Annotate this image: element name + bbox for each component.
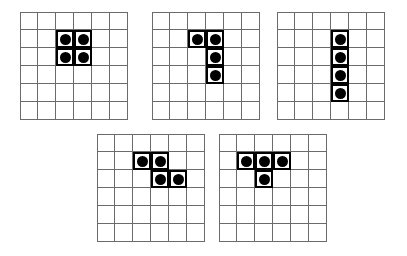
- empty-cell[interactable]: [313, 12, 331, 30]
- filled-cell[interactable]: [331, 84, 349, 102]
- empty-cell[interactable]: [219, 170, 237, 188]
- filled-cell[interactable]: [331, 48, 349, 66]
- empty-cell[interactable]: [349, 66, 367, 84]
- empty-cell[interactable]: [331, 102, 349, 120]
- empty-cell[interactable]: [38, 48, 56, 66]
- empty-cell[interactable]: [291, 206, 309, 224]
- filled-cell[interactable]: [273, 152, 291, 170]
- empty-cell[interactable]: [237, 170, 255, 188]
- empty-cell[interactable]: [110, 12, 128, 30]
- empty-cell[interactable]: [273, 134, 291, 152]
- empty-cell[interactable]: [152, 48, 170, 66]
- empty-cell[interactable]: [97, 206, 115, 224]
- empty-cell[interactable]: [237, 206, 255, 224]
- empty-cell[interactable]: [224, 12, 242, 30]
- empty-cell[interactable]: [291, 170, 309, 188]
- empty-cell[interactable]: [255, 206, 273, 224]
- empty-cell[interactable]: [291, 224, 309, 242]
- empty-cell[interactable]: [169, 152, 187, 170]
- empty-cell[interactable]: [219, 224, 237, 242]
- empty-cell[interactable]: [133, 170, 151, 188]
- empty-cell[interactable]: [74, 84, 92, 102]
- empty-cell[interactable]: [219, 206, 237, 224]
- empty-cell[interactable]: [92, 12, 110, 30]
- empty-cell[interactable]: [295, 84, 313, 102]
- filled-cell[interactable]: [331, 30, 349, 48]
- empty-cell[interactable]: [110, 30, 128, 48]
- empty-cell[interactable]: [92, 30, 110, 48]
- empty-cell[interactable]: [273, 206, 291, 224]
- empty-cell[interactable]: [74, 102, 92, 120]
- filled-cell[interactable]: [206, 66, 224, 84]
- empty-cell[interactable]: [115, 188, 133, 206]
- empty-cell[interactable]: [170, 66, 188, 84]
- empty-cell[interactable]: [277, 102, 295, 120]
- empty-cell[interactable]: [187, 224, 205, 242]
- empty-cell[interactable]: [224, 30, 242, 48]
- empty-cell[interactable]: [38, 84, 56, 102]
- empty-cell[interactable]: [224, 48, 242, 66]
- empty-cell[interactable]: [219, 134, 237, 152]
- empty-cell[interactable]: [170, 102, 188, 120]
- empty-cell[interactable]: [92, 48, 110, 66]
- empty-cell[interactable]: [170, 48, 188, 66]
- empty-cell[interactable]: [187, 170, 205, 188]
- empty-cell[interactable]: [170, 30, 188, 48]
- empty-cell[interactable]: [188, 12, 206, 30]
- empty-cell[interactable]: [349, 48, 367, 66]
- filled-cell[interactable]: [206, 30, 224, 48]
- empty-cell[interactable]: [206, 12, 224, 30]
- empty-cell[interactable]: [242, 66, 260, 84]
- empty-cell[interactable]: [349, 30, 367, 48]
- empty-cell[interactable]: [295, 30, 313, 48]
- empty-cell[interactable]: [219, 152, 237, 170]
- empty-cell[interactable]: [367, 48, 385, 66]
- empty-cell[interactable]: [367, 84, 385, 102]
- filled-cell[interactable]: [331, 66, 349, 84]
- empty-cell[interactable]: [219, 188, 237, 206]
- empty-cell[interactable]: [187, 152, 205, 170]
- empty-cell[interactable]: [313, 30, 331, 48]
- empty-cell[interactable]: [273, 224, 291, 242]
- empty-cell[interactable]: [38, 12, 56, 30]
- filled-cell[interactable]: [133, 152, 151, 170]
- empty-cell[interactable]: [152, 12, 170, 30]
- filled-cell[interactable]: [169, 170, 187, 188]
- empty-cell[interactable]: [367, 102, 385, 120]
- filled-cell[interactable]: [206, 48, 224, 66]
- empty-cell[interactable]: [133, 134, 151, 152]
- empty-cell[interactable]: [309, 224, 327, 242]
- empty-cell[interactable]: [295, 48, 313, 66]
- empty-cell[interactable]: [97, 224, 115, 242]
- empty-cell[interactable]: [97, 188, 115, 206]
- empty-cell[interactable]: [349, 12, 367, 30]
- empty-cell[interactable]: [277, 48, 295, 66]
- empty-cell[interactable]: [92, 84, 110, 102]
- empty-cell[interactable]: [242, 102, 260, 120]
- empty-cell[interactable]: [187, 134, 205, 152]
- empty-cell[interactable]: [115, 206, 133, 224]
- empty-cell[interactable]: [38, 102, 56, 120]
- empty-cell[interactable]: [309, 188, 327, 206]
- empty-cell[interactable]: [255, 224, 273, 242]
- empty-cell[interactable]: [291, 134, 309, 152]
- empty-cell[interactable]: [237, 188, 255, 206]
- empty-cell[interactable]: [97, 134, 115, 152]
- empty-cell[interactable]: [38, 66, 56, 84]
- empty-cell[interactable]: [152, 66, 170, 84]
- empty-cell[interactable]: [242, 30, 260, 48]
- empty-cell[interactable]: [115, 134, 133, 152]
- empty-cell[interactable]: [188, 66, 206, 84]
- empty-cell[interactable]: [273, 188, 291, 206]
- filled-cell[interactable]: [74, 48, 92, 66]
- empty-cell[interactable]: [169, 224, 187, 242]
- empty-cell[interactable]: [151, 206, 169, 224]
- empty-cell[interactable]: [133, 224, 151, 242]
- empty-cell[interactable]: [349, 84, 367, 102]
- empty-cell[interactable]: [20, 84, 38, 102]
- empty-cell[interactable]: [56, 102, 74, 120]
- empty-cell[interactable]: [20, 30, 38, 48]
- empty-cell[interactable]: [152, 84, 170, 102]
- empty-cell[interactable]: [169, 188, 187, 206]
- empty-cell[interactable]: [115, 224, 133, 242]
